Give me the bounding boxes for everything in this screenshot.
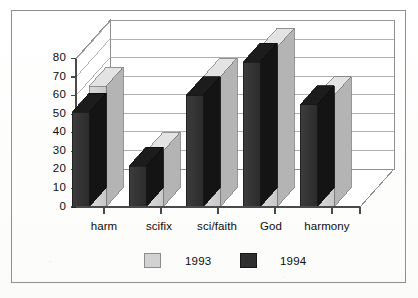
y-tick-30: 30	[40, 144, 66, 156]
legend-swatch-1994	[240, 253, 257, 268]
x-tick-harmony: harmony	[288, 220, 366, 232]
y-tick-70: 70	[40, 70, 66, 82]
y-tick-20: 20	[40, 162, 66, 174]
legend-swatch-1993	[144, 253, 161, 268]
y-tick-60: 60	[40, 88, 66, 100]
legend-label-1993: 1993	[185, 255, 211, 267]
y-tick-0: 0	[40, 200, 66, 212]
bar-scifaith-1994	[186, 77, 220, 207]
x-tick-scifaith: sci/faith	[181, 220, 253, 232]
bar-harm-1994	[72, 93, 106, 207]
chart-page: 80 70 60 50 40 30 20 10 0 harm scifix sc…	[0, 0, 418, 298]
x-axis-ticks	[104, 207, 360, 214]
bar-god-1994	[243, 43, 277, 207]
bar-group-harmony	[300, 77, 351, 207]
bar-harmony-1994	[300, 86, 334, 207]
y-tick-50: 50	[40, 107, 66, 119]
bar-group-god	[243, 28, 294, 207]
y-tick-80: 80	[40, 51, 66, 63]
legend-label-1994: 1994	[280, 255, 306, 267]
y-tick-40: 40	[40, 125, 66, 137]
x-tick-harm: harm	[73, 220, 135, 232]
y-tick-10: 10	[40, 181, 66, 193]
